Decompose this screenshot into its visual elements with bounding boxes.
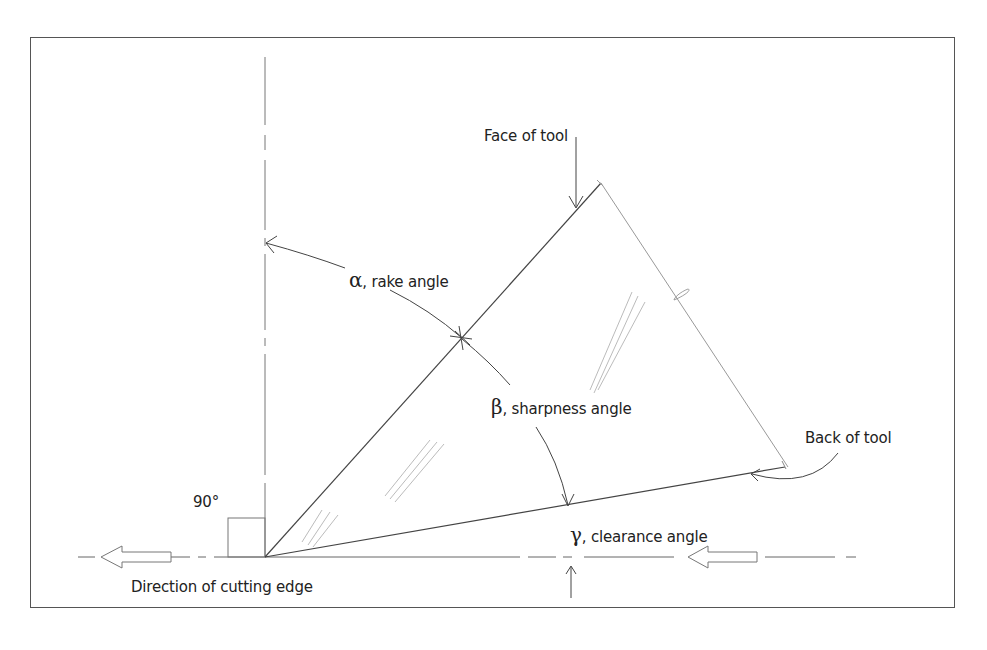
sharpness-angle-text: , sharpness angle [502,400,631,418]
rake-angle-text: , rake angle [362,273,448,291]
rake-angle-label: α, rake angle [349,268,449,292]
tool-wedge [265,180,788,557]
sharpness-angle-arc [462,339,574,506]
sharpness-angle-label: β, sharpness angle [491,395,631,419]
tool-hatching [302,292,645,547]
clearance-angle-pointer [566,566,576,598]
right-angle-marker [228,518,265,557]
right-angle-label: 90° [193,493,219,511]
beta-symbol: β [491,395,502,419]
right-direction-arrow-icon [688,546,757,568]
tool-angle-diagram [0,0,987,650]
back-of-tool-pointer [751,453,838,481]
clearance-angle-text: , clearance angle [582,528,708,546]
gamma-symbol: γ [570,523,582,547]
face-of-tool-label: Face of tool [484,127,568,145]
alpha-symbol: α [349,268,362,292]
back-of-tool-label: Back of tool [805,429,891,447]
face-of-tool-pointer [569,137,583,208]
cutting-direction-label: Direction of cutting edge [131,578,313,596]
clearance-angle-label: γ, clearance angle [570,523,707,547]
left-direction-arrow-icon [101,546,171,568]
